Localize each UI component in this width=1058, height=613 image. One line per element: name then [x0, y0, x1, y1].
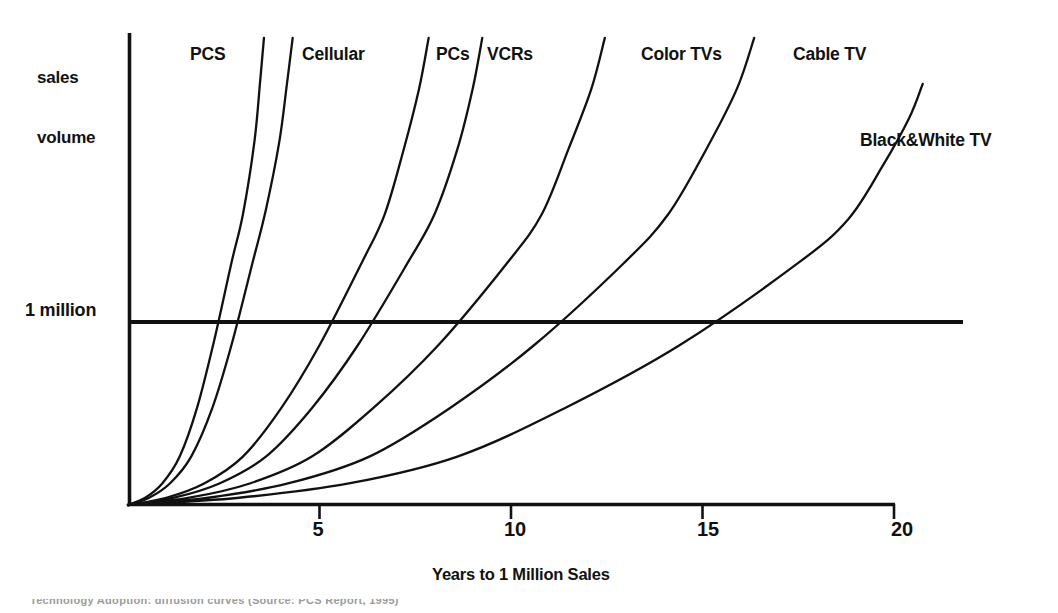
series-curve-pcs — [128, 38, 264, 505]
series-label-bw-tv: Black&White TV — [860, 130, 991, 151]
series-curves-layer — [128, 38, 923, 505]
figure-caption: Technology Adoption: diffusion curves (S… — [30, 599, 1058, 606]
x-axis-title: Years to 1 Million Sales — [432, 565, 610, 584]
series-label-vcrs: VCRs — [487, 44, 533, 65]
series-curve-pcs — [128, 38, 429, 505]
series-curve-cable-tv — [128, 38, 754, 505]
series-curve-cellular — [128, 38, 293, 505]
x-tick-label-5: 5 — [298, 518, 338, 542]
series-curve-vcrs — [128, 38, 482, 505]
figure-caption-strip: Technology Adoption: diffusion curves (S… — [0, 599, 1058, 613]
series-label-cable-tv: Cable TV — [793, 44, 866, 65]
x-tick-label-10: 10 — [490, 518, 540, 542]
series-label-pcs-computers: PCs — [436, 44, 469, 65]
y-axis-title-line-1: sales — [37, 68, 95, 88]
series-label-pcs: PCS — [190, 44, 225, 65]
series-curve-color-tvs — [128, 38, 605, 505]
y-axis-title-line-2: volume — [37, 128, 95, 148]
series-label-cellular: Cellular — [302, 44, 365, 65]
series-curve-black-white-tv — [128, 84, 923, 505]
x-tick-label-15: 15 — [683, 518, 733, 542]
one-million-label: 1 million — [25, 300, 96, 321]
chart-figure: sales volume 1 million PCS Cellular PCs … — [0, 0, 1058, 613]
y-axis-title: sales volume — [37, 28, 95, 188]
series-label-color-tvs: Color TVs — [641, 44, 722, 65]
x-tick-label-20: 20 — [877, 518, 927, 542]
